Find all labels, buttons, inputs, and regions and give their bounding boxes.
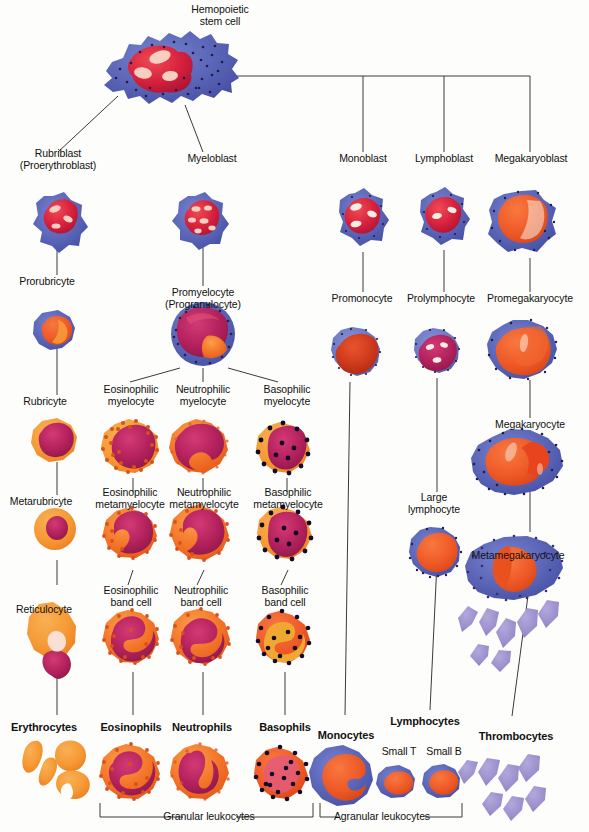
cell-small-b-lymphocyte: [422, 764, 460, 798]
cell-basophilic-metamyelocyte: [257, 505, 314, 562]
cell-eosinophilic-band-cell: [102, 608, 159, 665]
hematopoiesis-diagram: Hemopoietic stem cell Rubriblast (Proery…: [0, 0, 589, 832]
cell-monoblast: [339, 188, 389, 246]
cell-eosinophils: [99, 742, 160, 801]
label-basophilic-myelocyte: Basophilic myelocyte: [264, 384, 311, 407]
cell-small-t-lymphocyte: [376, 765, 415, 798]
label-neutrophils: Neutrophils: [172, 722, 232, 734]
label-eosinophilic-metamyelocyte: Eosinophilic metamyelocyte: [95, 487, 164, 510]
label-prolymphocyte: Prolymphocyte: [407, 293, 475, 305]
label-small-t: Small T: [382, 746, 417, 758]
cell-myeloblast: [172, 192, 229, 250]
cell-neutrophilic-metamyelocyte: [169, 503, 230, 562]
label-neutrophilic-myelocyte: Neutrophilic myelocyte: [176, 384, 230, 407]
cell-large-lymphocyte: [409, 527, 462, 578]
label-eosinophils: Eosinophils: [100, 722, 161, 734]
cell-basophils: [254, 745, 310, 802]
cell-erythrocytes: [22, 741, 89, 800]
label-metarubricyte: Metarubricyte: [10, 496, 72, 508]
cell-monocytes: [309, 745, 373, 806]
cell-prolymphocyte: [414, 328, 460, 373]
cell-neutrophilic-band-cell: [170, 607, 231, 666]
label-metamegakaryocyte: Metamegakaryocyte: [472, 550, 565, 562]
cell-promegakaryocyte: [487, 319, 557, 380]
cell-rubriblast: [33, 192, 88, 253]
label-monoblast: Monoblast: [339, 153, 387, 165]
label-reticulocyte: Reticulocyte: [16, 604, 72, 616]
label-promyelocyte: Promyelocyte (Progranulocyte): [165, 287, 241, 310]
label-basophilic-band-cell: Basophilic band cell: [262, 585, 309, 608]
label-myeloblast: Myeloblast: [187, 153, 236, 165]
cell-neutrophilic-myelocyte: [169, 419, 229, 475]
label-erythrocytes: Erythrocytes: [11, 722, 77, 734]
cell-promyelocyte: [171, 302, 235, 366]
label-hemopoietic-stem-cell: Hemopoietic stem cell: [191, 4, 248, 27]
label-granular-leukocytes: Granular leukocytes: [163, 811, 254, 823]
cell-megakaryocyte: [471, 428, 563, 496]
cell-thrombocytes-lower: [458, 754, 546, 821]
label-lymphoblast: Lymphoblast: [415, 153, 473, 165]
label-monocytes: Monocytes: [318, 730, 375, 742]
cell-thrombocytes-upper: [458, 600, 559, 672]
cell-promonocyte: [331, 327, 381, 376]
cell-prorubricyte: [33, 310, 75, 350]
cell-basophilic-myelocyte: [256, 421, 311, 476]
label-eosinophilic-band-cell: Eosinophilic band cell: [104, 585, 159, 608]
label-neutrophilic-band-cell: Neutrophilic band cell: [174, 585, 228, 608]
label-basophils: Basophils: [259, 722, 311, 734]
cell-basophilic-band-cell: [256, 609, 312, 666]
cell-metamegakaryocyte: [465, 535, 563, 602]
label-promegakaryocyte: Promegakaryocyte: [487, 293, 573, 305]
cell-neutrophils: [170, 742, 230, 800]
label-rubricyte: Rubricyte: [23, 396, 66, 408]
cell-lymphoblast: [420, 187, 470, 245]
label-prorubricyte: Prorubricyte: [19, 276, 74, 288]
label-neutrophilic-metamyelocyte: Neutrophilic metamyelocyte: [169, 487, 238, 510]
cell-metarubricyte: [34, 508, 76, 550]
cell-illustrations: [0, 0, 589, 832]
label-small-b: Small B: [426, 746, 461, 758]
cell-eosinophilic-metamyelocyte: [102, 506, 157, 560]
label-eosinophilic-myelocyte: Eosinophilic myelocyte: [104, 384, 159, 407]
label-basophilic-metamyelocyte: Basophilic metamyelocyte: [253, 487, 322, 510]
label-large-lymphocyte: Large lymphocyte: [408, 492, 460, 515]
label-megakaryocyte: Megakaryocyte: [495, 419, 565, 431]
label-promonocyte: Promonocyte: [332, 293, 393, 305]
label-thrombocytes: Thrombocytes: [479, 731, 554, 743]
label-agranular-leukocytes: Agranular leukocytes: [334, 811, 430, 823]
label-lymphocytes: Lymphocytes: [390, 716, 459, 728]
label-rubriblast: Rubriblast (Proerythroblast): [20, 148, 97, 171]
cell-hemopoietic-stem-cell: [104, 31, 239, 104]
cell-eosinophilic-myelocyte: [101, 419, 159, 474]
cell-rubricyte: [31, 418, 77, 462]
cell-megakaryoblast: [488, 190, 556, 252]
label-megakaryoblast: Megakaryoblast: [495, 153, 568, 165]
